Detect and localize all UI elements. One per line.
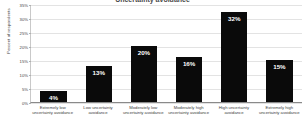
- gridline: [31, 103, 302, 104]
- bar-slot: 32%: [212, 5, 257, 102]
- x-axis-tick-label: Moderately low uncertainty avoidance: [121, 105, 166, 135]
- bar-value-label: 4%: [49, 94, 58, 101]
- plot-area: 4%13%20%16%32%15%: [30, 5, 302, 103]
- x-axis-tick-label: Extremely low uncertainty avoidance: [30, 105, 75, 135]
- y-tick-label: 10%: [12, 73, 28, 78]
- y-tick-label: 15%: [12, 59, 28, 64]
- y-tick-label: 0%: [12, 101, 28, 106]
- y-tick-label: 5%: [12, 87, 28, 92]
- x-axis-tick-labels: Extremely low uncertainty avoidanceLow u…: [30, 105, 302, 135]
- bar-slot: 20%: [121, 5, 166, 102]
- bar[interactable]: 16%: [176, 57, 202, 102]
- x-axis-tick-label: Low uncertainty avoidance: [75, 105, 120, 135]
- chart-title: Uncertainty avoidance: [0, 0, 305, 4]
- y-axis-tick-labels: 35% 30% 25% 20% 15% 10% 5% 0%: [12, 5, 29, 103]
- x-axis-tick-label: High uncertainty avoidance: [211, 105, 256, 135]
- bar-series: 4%13%20%16%32%15%: [31, 5, 302, 102]
- bar-value-label: 13%: [93, 69, 105, 76]
- y-tick-label: 30%: [12, 17, 28, 22]
- bar-chart-figure: Uncertainty avoidance Percent of respond…: [0, 0, 305, 136]
- bar[interactable]: 4%: [40, 91, 66, 102]
- bar[interactable]: 32%: [221, 12, 247, 102]
- bar-slot: 13%: [76, 5, 121, 102]
- bar[interactable]: 20%: [131, 46, 157, 102]
- bar-slot: 16%: [167, 5, 212, 102]
- x-axis-tick-label: Moderately high uncertainty avoidance: [166, 105, 211, 135]
- x-axis-tick-label: Extremely high uncertainty avoidance: [257, 105, 302, 135]
- bar-slot: 15%: [257, 5, 302, 102]
- y-tick-label: 35%: [12, 3, 28, 8]
- bar-slot: 4%: [31, 5, 76, 102]
- bar-value-label: 32%: [228, 15, 240, 22]
- bar[interactable]: 13%: [86, 66, 112, 102]
- y-axis-tick-mark: [29, 103, 32, 104]
- bar-value-label: 20%: [138, 49, 150, 56]
- bar[interactable]: 15%: [266, 60, 292, 102]
- y-tick-label: 25%: [12, 31, 28, 36]
- bar-value-label: 16%: [183, 60, 195, 67]
- bar-value-label: 15%: [273, 63, 285, 70]
- y-tick-label: 20%: [12, 45, 28, 50]
